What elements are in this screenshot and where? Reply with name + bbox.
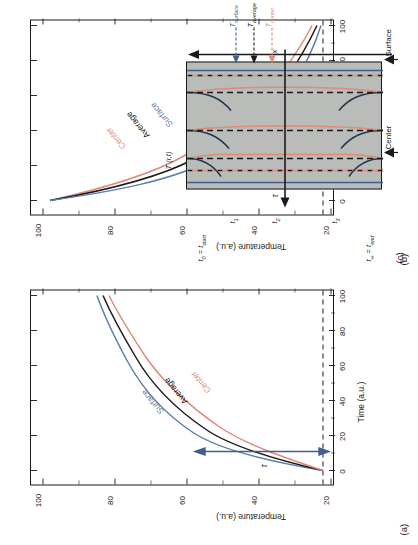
panel-c-time-label-t2-text: t2 (270, 218, 279, 223)
panel-c-edge-arrows (382, 49, 400, 199)
panel-c-vertical-axis-label: T (r,t) (164, 151, 173, 169)
panel-c-label-t-surface-base: T (228, 22, 237, 27)
panel-c-time-label-t2: t2 (270, 218, 281, 223)
panel-a-ytick-40: 40 (250, 489, 259, 511)
panel-a-ytick-80: 80 (106, 489, 115, 511)
panel-c-time-label-t3: t3 (330, 218, 341, 223)
panel-c-label-t-surface: Tsurface (228, 4, 239, 27)
panel-a-xtick-80: 80 (338, 321, 347, 341)
panel-c-temperature-callout-arrows (192, 23, 288, 63)
panel-a-ytick-20: 20 (322, 489, 331, 511)
panel-c-edge-label-surface: Surface (384, 28, 393, 56)
panel-c-label-t-surface-sub: surface (233, 4, 239, 22)
panel-c-time-label-tinf: t∞ = tend (364, 235, 375, 261)
panel-a-xtick-20: 20 (338, 426, 347, 446)
panel-a-xtick-0: 0 (338, 461, 347, 481)
panel-c-time-label-t0: t0 = tstart (196, 235, 207, 262)
panel-c-time-label-t0-text: t0 = tstart (196, 235, 205, 262)
panel-c-center-axis-arrow (278, 47, 292, 207)
panel-a-svg (31, 288, 335, 484)
rotated-figure: (a) Temperature (a.u.) 100 80 60 40 20 (0, 0, 418, 545)
panel-a-xtick-40: 40 (338, 391, 347, 411)
panel-a-ylabel: Temperature (a.u.) (216, 511, 286, 521)
panel-c-edge-label-center: Center (384, 125, 393, 149)
panel-c: (c) t0 = tstart t1 t2 t3 t∞ = tend T (r,… (178, 9, 414, 259)
panel-a: (a) Temperature (a.u.) 100 80 60 40 20 (6, 279, 416, 537)
panel-c-time-label-t3-text: t3 (330, 218, 339, 223)
figure-canvas: (a) Temperature (a.u.) 100 80 60 40 20 (0, 0, 418, 545)
panel-c-label-t-center: Tcenter (264, 7, 275, 27)
panel-a-xtick-100: 100 (338, 286, 347, 306)
panel-b-ytick-100: 100 (34, 219, 43, 241)
panel-a-xtick-60: 60 (338, 356, 347, 376)
panel-a-xlabel: Time (a.u.) (356, 381, 366, 422)
panel-c-label-t-average-base: T (246, 22, 255, 27)
panel-c-label-t-center-sub: center (269, 7, 275, 22)
panel-a-ytick-60: 60 (178, 489, 187, 511)
panel-a-plot-frame (30, 289, 334, 485)
panel-c-time-label-t1-text: t1 (228, 218, 237, 223)
panel-a-tau-label: τ (259, 464, 269, 467)
panel-b-ytick-80: 80 (106, 219, 115, 241)
panel-c-label-t-average-sub: average (251, 3, 257, 23)
panel-c-time-label-tinf-text: t∞ = tend (364, 235, 373, 261)
panel-a-ytick-100: 100 (34, 489, 43, 511)
panel-c-label-t-center-base: T (264, 22, 273, 27)
panel-c-time-label-t1: t1 (228, 218, 239, 223)
panel-a-tag: (a) (398, 523, 409, 535)
panel-c-label-t-average: Taverage (246, 3, 257, 27)
panel-c-tag: (c) (394, 252, 405, 263)
